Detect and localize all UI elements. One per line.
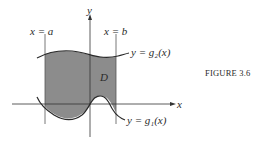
label-lower-curve: y = g₁(x) [126, 114, 167, 127]
region-d-fill [45, 51, 116, 118]
label-x-axis: x [176, 98, 182, 110]
label-region-d: D [99, 71, 108, 83]
label-x-eq-b: x = b [103, 25, 128, 37]
label-upper-curve: y = g₂(x) [130, 46, 171, 59]
figure-caption: FIGURE 3.6 [205, 68, 250, 78]
x-axis-arrow [170, 102, 176, 106]
figure-diagram: x = a x = b y x D y = g₂(x) y = g₁(x) FI… [0, 0, 268, 144]
label-y-axis: y [86, 4, 92, 16]
label-x-eq-a: x = a [29, 25, 54, 37]
